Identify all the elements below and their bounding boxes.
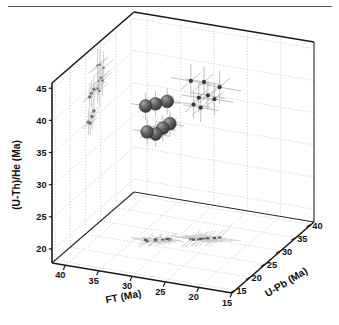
data-point-dot[interactable] xyxy=(212,97,216,101)
tick-label-z: 20 xyxy=(252,273,262,283)
tick-label-z: 35 xyxy=(297,234,307,244)
grid-line-floor-depth xyxy=(65,194,147,265)
projection-point-floor xyxy=(166,238,169,240)
tick-label-z: 15 xyxy=(236,286,246,296)
scatter3d-plot: 454035302520403530252015152025303540(U-T… xyxy=(0,0,339,325)
cube-edge-top-left xyxy=(52,12,134,83)
data-point-dot[interactable] xyxy=(199,106,203,110)
tick-label-z: 40 xyxy=(312,221,322,231)
projection-point-leftwall xyxy=(101,79,103,81)
projection-point-leftwall xyxy=(96,87,98,89)
data-point-dot[interactable] xyxy=(218,85,222,89)
tick-label-x: 40 xyxy=(55,270,65,280)
grid-line-floor-width xyxy=(55,260,235,290)
data-point-dot[interactable] xyxy=(206,93,210,97)
tick-mark-x xyxy=(230,293,232,298)
cube-edge-floor-left xyxy=(52,192,134,263)
tick-label-y: 20 xyxy=(36,244,46,254)
tick-mark-x xyxy=(197,287,199,292)
projection-point-floor xyxy=(192,238,195,240)
projection-point-leftwall xyxy=(98,90,100,92)
tick-label-y: 35 xyxy=(36,148,46,158)
projection-point-floor xyxy=(154,238,157,240)
cube-edge-top-back xyxy=(134,12,314,42)
data-point-sphere[interactable] xyxy=(141,126,154,139)
projection-point-leftwall xyxy=(92,109,95,112)
data-point-dot[interactable] xyxy=(189,79,193,83)
grid-line-leftwall-depth xyxy=(52,18,134,89)
grid-line-leftwall-depth xyxy=(52,179,134,250)
grid-line-backwall-horizontal xyxy=(134,83,314,113)
tick-label-y: 30 xyxy=(36,180,46,190)
projection-point-floor xyxy=(144,239,147,241)
data-point-dot[interactable] xyxy=(191,102,195,106)
grid-line-floor-depth xyxy=(199,216,281,287)
axis-x-front-bottom xyxy=(52,263,232,293)
axis-title-z: U-Pb (Ma) xyxy=(263,265,309,299)
axis-title-x: FT (Ma) xyxy=(105,288,143,306)
data-point-dot[interactable] xyxy=(202,80,206,84)
tick-mark-x xyxy=(97,271,99,276)
tick-label-x: 25 xyxy=(155,287,165,297)
grid-line-floor-width xyxy=(131,195,311,225)
projection-point-leftwall xyxy=(102,67,104,69)
grid-line-backwall-horizontal xyxy=(134,147,314,177)
tick-label-y: 40 xyxy=(36,116,46,126)
grid-line-leftwall-depth xyxy=(52,115,134,186)
tick-mark-x xyxy=(130,276,132,281)
projection-point-floor xyxy=(199,238,202,240)
tick-mark-x xyxy=(163,282,165,287)
grid-line-backwall-horizontal xyxy=(134,18,314,48)
data-point-sphere[interactable] xyxy=(139,100,152,113)
cube-edge-floor-back xyxy=(134,192,314,222)
tick-label-z: 30 xyxy=(282,247,292,257)
figure-canvas: 454035302520403530252015152025303540(U-T… xyxy=(0,0,339,325)
projection-point-leftwall xyxy=(90,115,93,118)
projection-point-floor xyxy=(213,237,216,239)
tick-label-x: 35 xyxy=(89,276,99,286)
data-point-dot[interactable] xyxy=(197,96,201,100)
tick-mark-x xyxy=(63,265,65,270)
grid-line-backwall-horizontal xyxy=(134,51,314,81)
axis-z-right-bottom xyxy=(232,222,314,293)
grid-line-floor-depth xyxy=(165,211,247,282)
data-point-sphere[interactable] xyxy=(161,95,174,108)
grid-line-leftwall-depth xyxy=(52,147,134,218)
tick-label-z: 25 xyxy=(267,260,277,270)
axis-title-y: (U-Th)/He (Ma) xyxy=(11,140,22,210)
tick-label-y: 45 xyxy=(36,84,46,94)
tick-label-x: 15 xyxy=(222,298,232,308)
projection-point-leftwall xyxy=(89,121,92,124)
tick-label-y: 25 xyxy=(36,212,46,222)
grid-line-backwall-horizontal xyxy=(134,179,314,209)
tick-label-x: 20 xyxy=(189,292,199,302)
